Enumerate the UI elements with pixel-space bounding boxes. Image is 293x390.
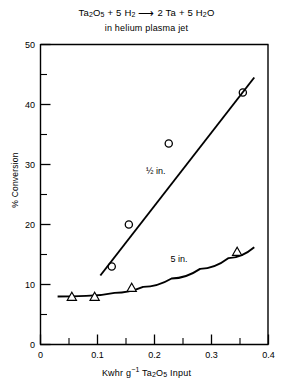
xlabel-kwhr: Kwhr g bbox=[102, 368, 131, 378]
x-axis-title: Kwhr g−1 Ta2O5 Input bbox=[0, 366, 293, 378]
x-tick-label-0.1: 0.1 bbox=[91, 350, 104, 360]
y-tick-label-20: 20 bbox=[25, 220, 35, 230]
y-axis-tick-labels: 0 10 20 30 40 50 bbox=[25, 40, 35, 350]
y-tick-label-10: 10 bbox=[25, 280, 35, 290]
x-tick-label-0: 0 bbox=[38, 350, 43, 360]
series-label-five-inch: 5 in. bbox=[170, 254, 187, 264]
series-half-inch-fit-line bbox=[100, 78, 254, 276]
data-point-marker bbox=[165, 140, 172, 147]
chart-figure: Ta2O5 + 5 H2 ⟶ 2 Ta + 5 H2O in helium pl… bbox=[0, 0, 293, 390]
x-tick-label-0.4: 0.4 bbox=[262, 350, 275, 360]
x-axis-tick-labels: 0 0.1 0.2 0.3 0.4 bbox=[38, 350, 275, 360]
data-point-marker bbox=[233, 247, 242, 255]
y-axis-title: % Conversion bbox=[10, 135, 20, 225]
xlabel-exp: −1 bbox=[131, 366, 139, 373]
series-five-inch-fit-curve bbox=[58, 247, 255, 296]
y-tick-label-50: 50 bbox=[25, 40, 35, 50]
series-five-inch-markers bbox=[67, 247, 242, 300]
plot-area: 0 10 20 30 40 50 0 0.1 0.2 0.3 0.4 bbox=[0, 0, 293, 390]
xlabel-input: Input bbox=[167, 368, 191, 378]
x-tick-label-0.3: 0.3 bbox=[205, 350, 218, 360]
data-point-marker bbox=[108, 263, 115, 270]
series-half-inch-markers bbox=[108, 89, 246, 270]
y-tick-label-0: 0 bbox=[30, 340, 35, 350]
y-axis-minor-ticks bbox=[41, 75, 48, 315]
data-point-marker bbox=[127, 283, 136, 291]
series-label-half-inch: ½ in. bbox=[146, 166, 166, 176]
x-tick-label-0.2: 0.2 bbox=[148, 350, 161, 360]
y-tick-label-30: 30 bbox=[25, 160, 35, 170]
xlabel-ta: Ta bbox=[140, 368, 152, 378]
y-tick-label-40: 40 bbox=[25, 100, 35, 110]
data-point-marker bbox=[125, 221, 132, 228]
x-axis-major-ticks bbox=[41, 335, 269, 345]
